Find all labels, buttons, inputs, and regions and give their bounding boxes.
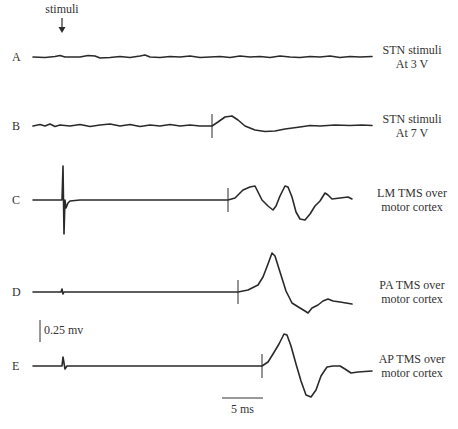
scale-bars: 0.25 mv 5 ms (40, 320, 263, 416)
trace-d: DPA TMS overmotor cortex (12, 253, 445, 313)
trace-b: BSTN stimuliAt 7 V (12, 112, 442, 140)
trace-description: AP TMS overmotor cortex (379, 352, 446, 380)
traces: ASTN stimuliAt 3 VBSTN stimuliAt 7 VCLM … (12, 43, 447, 397)
figure: stimuli ASTN stimuliAt 3 VBSTN stimuliAt… (0, 0, 458, 429)
trace-letter-label: E (12, 359, 19, 373)
trace-line (33, 116, 372, 132)
trace-letter-label: D (12, 285, 21, 299)
trace-description: PA TMS overmotor cortex (379, 278, 444, 306)
trace-line (33, 253, 352, 313)
voltage-scale-label: 0.25 mv (44, 323, 83, 337)
trace-letter-label: B (12, 119, 20, 133)
trace-letter-label: C (12, 193, 20, 207)
trace-a: ASTN stimuliAt 3 V (12, 43, 442, 71)
arrow-down-icon (59, 18, 66, 33)
trace-description: STN stimuliAt 7 V (382, 112, 442, 140)
trace-e: EAP TMS overmotor cortex (12, 334, 445, 397)
trace-line (33, 166, 352, 234)
stimuli-annotation: stimuli (45, 2, 79, 16)
trace-description: STN stimuliAt 3 V (382, 43, 442, 71)
time-scale-label: 5 ms (231, 402, 254, 416)
trace-line (33, 334, 372, 397)
trace-c: CLM TMS overmotor cortex (12, 166, 447, 234)
trace-letter-label: A (12, 50, 21, 64)
trace-description: LM TMS overmotor cortex (377, 186, 447, 214)
trace-line (33, 55, 372, 58)
